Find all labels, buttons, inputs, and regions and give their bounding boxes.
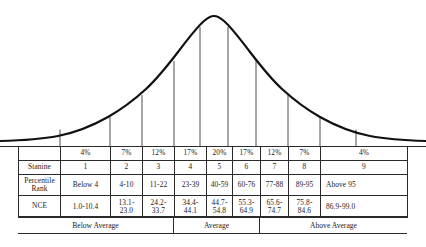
percentile-cell-6: 60-76 bbox=[233, 175, 261, 196]
nce-cell-4: 34.4- 44.1 bbox=[175, 196, 207, 218]
stanine-cell-1: 1 bbox=[61, 161, 111, 175]
percentile-cell-4: 23-39 bbox=[175, 175, 207, 196]
stanine-cell-8: 8 bbox=[289, 161, 321, 175]
nce-cell-1: 1.0-10.4 bbox=[61, 196, 111, 218]
percent-cell-3: 12% bbox=[143, 147, 175, 161]
nce-cell-6: 55.3- 64.9 bbox=[233, 196, 261, 218]
nce-cell-3: 24.2- 33.7 bbox=[143, 196, 175, 218]
stanine-divider-lines bbox=[60, 27, 356, 146]
percentile-cell-3: 11-22 bbox=[143, 175, 175, 196]
normal-distribution-curve bbox=[0, 16, 426, 141]
percent-cell-5: 20% bbox=[207, 147, 233, 161]
nce-cell-5-line2: 54.8 bbox=[209, 207, 230, 215]
nce-cell-5: 44.7- 54.8 bbox=[207, 196, 233, 218]
table-row-nce: NCE 1.0-10.4 13.1- 23.0 24.2- 33.7 34.4-… bbox=[19, 196, 408, 218]
nce-cell-8-line2: 84.6 bbox=[291, 207, 318, 215]
row-label-percentile-rank: Percentile Rank bbox=[19, 175, 61, 196]
performance-band-row: Below Average Average Above Average bbox=[18, 216, 407, 234]
nce-cell-9-line1: 86.9-99.0 bbox=[326, 203, 405, 211]
band-above-average: Above Average bbox=[260, 217, 407, 233]
percentile-cell-9: Above 95 bbox=[321, 175, 408, 196]
normal-curve-svg bbox=[0, 0, 426, 148]
percentile-cell-2: 4-10 bbox=[111, 175, 143, 196]
stanine-cell-6: 6 bbox=[233, 161, 261, 175]
percent-cell-4: 17% bbox=[175, 147, 207, 161]
percentile-cell-5: 40-59 bbox=[207, 175, 233, 196]
nce-cell-1-line1: 1.0-10.4 bbox=[63, 203, 108, 211]
nce-cell-6-line2: 64.9 bbox=[235, 207, 258, 215]
stanine-cell-5: 5 bbox=[207, 161, 233, 175]
table-row-percentile-rank: Percentile Rank Below 4 4-10 11-22 23-39… bbox=[19, 175, 408, 196]
nce-cell-8: 75.8- 84.6 bbox=[289, 196, 321, 218]
percentile-cell-7: 77-88 bbox=[261, 175, 289, 196]
table-row-percent: 4% 7% 12% 17% 20% 17% 12% 7% 4% bbox=[19, 147, 408, 161]
stanine-cell-9: 9 bbox=[321, 161, 408, 175]
band-below-average: Below Average bbox=[18, 217, 174, 233]
percent-cell-8: 7% bbox=[289, 147, 321, 161]
stanine-cell-7: 7 bbox=[261, 161, 289, 175]
table-row-stanine: Stanine 1 2 3 4 5 6 7 8 9 bbox=[19, 161, 408, 175]
nce-cell-4-line2: 44.1 bbox=[177, 207, 204, 215]
row-label-percent bbox=[19, 147, 61, 161]
percent-cell-7: 12% bbox=[261, 147, 289, 161]
percentile-cell-8: 89-95 bbox=[289, 175, 321, 196]
nce-cell-2: 13.1- 23.0 bbox=[111, 196, 143, 218]
percentile-cell-1: Below 4 bbox=[61, 175, 111, 196]
nce-cell-9: 86.9-99.0 bbox=[321, 196, 408, 218]
stanine-cell-2: 2 bbox=[111, 161, 143, 175]
row-label-stanine: Stanine bbox=[19, 161, 61, 175]
row-label-nce: NCE bbox=[19, 196, 61, 218]
nce-cell-7: 65.6- 74.7 bbox=[261, 196, 289, 218]
stanine-cell-3: 3 bbox=[143, 161, 175, 175]
percent-cell-9: 4% bbox=[321, 147, 408, 161]
percent-cell-1: 4% bbox=[61, 147, 111, 161]
row-label-percentile-line2: Rank bbox=[21, 185, 58, 193]
stanine-data-table: 4% 7% 12% 17% 20% 17% 12% 7% 4% Stanine … bbox=[18, 146, 408, 218]
stanine-cell-4: 4 bbox=[175, 161, 207, 175]
nce-cell-7-line2: 74.7 bbox=[263, 207, 286, 215]
nce-cell-2-line2: 23.0 bbox=[113, 207, 140, 215]
percent-cell-2: 7% bbox=[111, 147, 143, 161]
percent-cell-6: 17% bbox=[233, 147, 261, 161]
nce-cell-3-line2: 33.7 bbox=[145, 207, 172, 215]
bell-curve-area bbox=[0, 0, 426, 148]
stanine-chart-figure: 4% 7% 12% 17% 20% 17% 12% 7% 4% Stanine … bbox=[0, 0, 426, 247]
band-average: Average bbox=[174, 217, 260, 233]
